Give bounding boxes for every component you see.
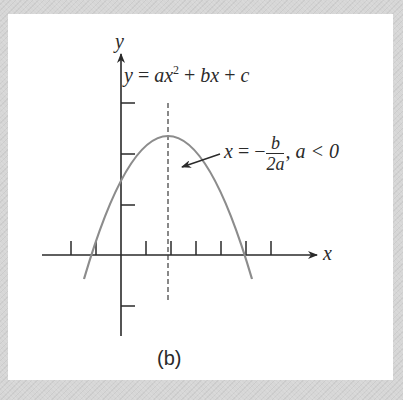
fraction-b-over-2a: b2a: [266, 134, 284, 173]
equation-label: y = ax2 + bx + c: [124, 64, 249, 85]
y-axis-label: y: [115, 31, 124, 51]
y-axis-ticks: [121, 103, 135, 306]
figure-caption: (b): [157, 347, 181, 370]
parabola-figure: [0, 0, 403, 400]
x-axis-label: x: [323, 243, 332, 263]
axis-of-symmetry-annotation: x = −b2a, a < 0: [224, 134, 339, 173]
annotation-arrow: [182, 154, 220, 167]
